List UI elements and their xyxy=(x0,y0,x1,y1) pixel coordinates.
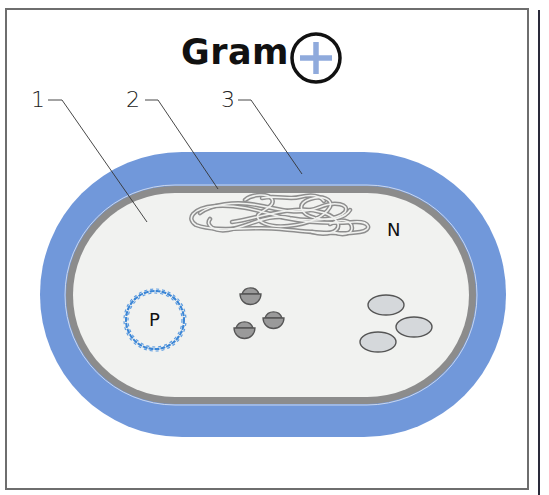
gram-positive-plus-icon xyxy=(292,34,340,82)
inclusion-body xyxy=(368,295,404,315)
gram-positive-cell-diagram xyxy=(0,0,549,495)
label-1-cytoplasm: 1 xyxy=(31,89,45,111)
label-3-cell-wall: 3 xyxy=(221,89,235,111)
plasmid-label: P xyxy=(149,311,160,329)
label-2-membrane: 2 xyxy=(126,89,140,111)
inclusion-body xyxy=(360,332,396,352)
nucleoid-label: N xyxy=(387,221,400,239)
inclusion-body xyxy=(396,317,432,337)
